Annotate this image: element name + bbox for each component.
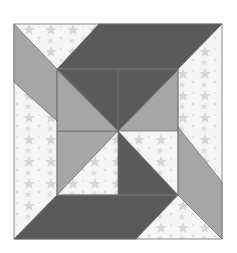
quilt-block	[0, 0, 237, 253]
